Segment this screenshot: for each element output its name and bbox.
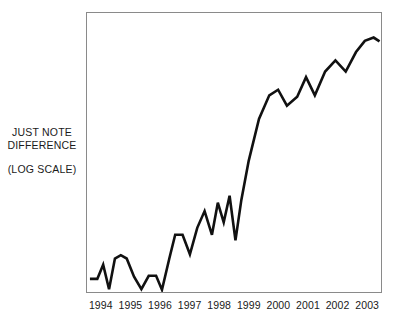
x-tick-label: 1994 (86, 298, 116, 314)
x-axis-tick-labels: 1994199519961997199819992000200120022003 (86, 298, 382, 314)
chart-figure: JUST NOTE DIFFERENCE (LOG SCALE) 1994199… (0, 0, 396, 320)
x-tick-label: 2002 (323, 298, 353, 314)
x-tick-label: 1999 (234, 298, 264, 314)
y-axis-label-line-2: DIFFERENCE (0, 139, 84, 152)
y-axis-scale-note: (LOG SCALE) (0, 163, 84, 176)
x-tick-label: 2001 (293, 298, 323, 314)
x-tick-label: 2000 (264, 298, 294, 314)
y-axis-annotation: JUST NOTE DIFFERENCE (LOG SCALE) (0, 126, 84, 176)
x-tick-label: 1995 (116, 298, 146, 314)
x-tick-label: 1996 (145, 298, 175, 314)
y-axis-label-line-1: JUST NOTE (0, 126, 84, 139)
x-tick-label: 1998 (204, 298, 234, 314)
x-tick-label: 1997 (175, 298, 205, 314)
data-series-line (90, 38, 380, 290)
x-tick-label: 2003 (352, 298, 382, 314)
plot-area (86, 12, 382, 293)
plot-svg (87, 13, 381, 292)
